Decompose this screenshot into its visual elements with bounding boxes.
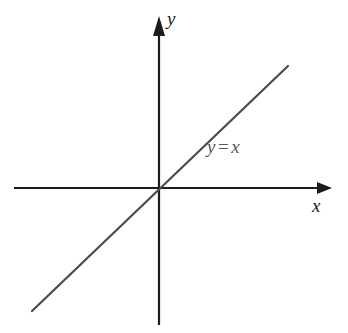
equation-operator: = xyxy=(216,136,231,157)
arrow-right-icon xyxy=(317,182,332,194)
x-axis-label: x xyxy=(312,196,320,215)
plot-canvas xyxy=(0,0,348,333)
arrow-up-icon xyxy=(153,16,165,36)
coordinate-plane-figure: y x y=x xyxy=(0,0,348,333)
equation-rhs: x xyxy=(231,136,240,157)
equation-label: y=x xyxy=(207,137,240,156)
equation-lhs: y xyxy=(207,136,216,157)
y-axis-label: y xyxy=(167,9,175,28)
